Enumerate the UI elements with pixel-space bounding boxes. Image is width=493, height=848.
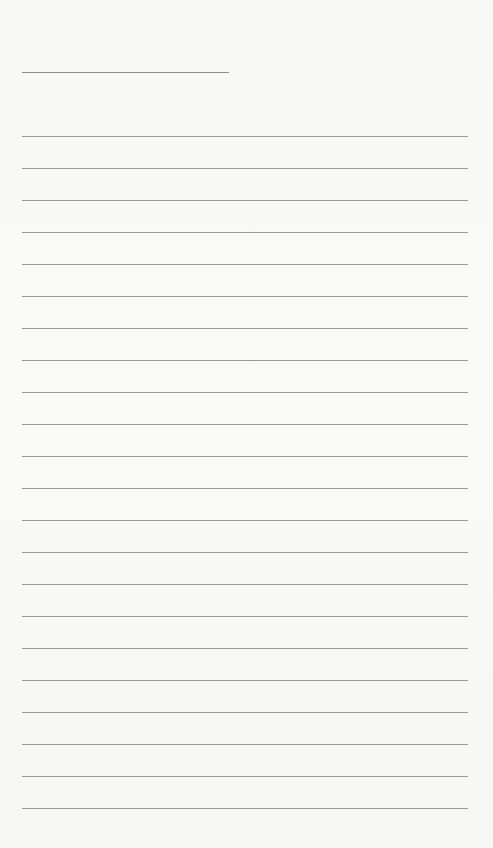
ruled-line — [22, 808, 468, 809]
title-write-line — [22, 72, 229, 73]
ruled-line — [22, 360, 468, 361]
ruled-line — [22, 616, 468, 617]
ruled-line — [22, 136, 468, 137]
ruled-line — [22, 488, 468, 489]
ruled-line — [22, 648, 468, 649]
ruled-line — [22, 456, 468, 457]
ruled-line — [22, 200, 468, 201]
lined-paper-page — [0, 0, 493, 848]
ruled-line — [22, 584, 468, 585]
ruled-line — [22, 776, 468, 777]
ruled-line — [22, 680, 468, 681]
ruled-line — [22, 392, 468, 393]
ruled-line — [22, 552, 468, 553]
ruled-line — [22, 520, 468, 521]
ruled-line — [22, 424, 468, 425]
ruled-line — [22, 744, 468, 745]
ruled-line — [22, 296, 468, 297]
ruled-line — [22, 712, 468, 713]
ruled-line — [22, 168, 468, 169]
ruled-line — [22, 232, 468, 233]
ruled-line — [22, 328, 468, 329]
ruled-line — [22, 264, 468, 265]
